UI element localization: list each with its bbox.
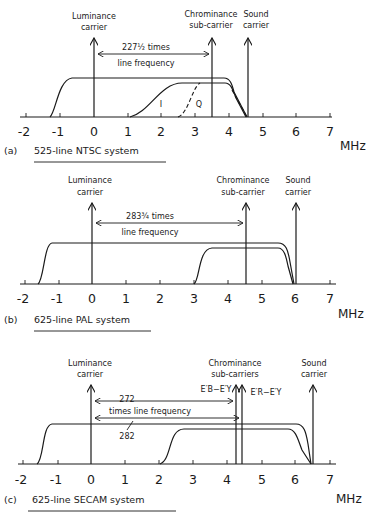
svg-text:-1: -1 (51, 291, 63, 306)
spacing-label-middle: times line frequency (109, 407, 191, 416)
sound-carrier-label-2: carrier (301, 370, 328, 379)
caption-prefix: (a) (4, 145, 17, 156)
svg-text:0: 0 (88, 291, 96, 306)
dr-subcarrier-label: E′R−E′Y (251, 388, 282, 397)
svg-text:5: 5 (258, 291, 266, 306)
i-chroma-band (130, 83, 246, 117)
luminance-carrier-label-2: carrier (81, 23, 108, 32)
sound-carrier-label-1: Sound (243, 10, 268, 19)
caption-prefix: (b) (4, 314, 17, 325)
luminance-carrier-label-2: carrier (77, 188, 104, 197)
chroma-subcarriers-label-1: Chrominance (208, 359, 261, 368)
sound-carrier-label-1: Sound (301, 359, 326, 368)
svg-text:3: 3 (189, 472, 197, 487)
svg-text:6: 6 (292, 124, 300, 139)
svg-text:3: 3 (190, 291, 198, 306)
luminance-carrier-label-1: Luminance (68, 176, 112, 185)
svg-text:4: 4 (225, 124, 233, 139)
svg-text:2: 2 (157, 124, 165, 139)
luminance-band (38, 243, 294, 284)
svg-text:1: 1 (124, 124, 132, 139)
svg-text:7: 7 (326, 291, 334, 306)
svg-text:4: 4 (223, 472, 231, 487)
svg-text:-2: -2 (18, 124, 30, 139)
band-label-q: Q (196, 100, 202, 109)
unit-label: MHz (338, 307, 364, 321)
svg-text:2: 2 (155, 472, 163, 487)
svg-text:6: 6 (291, 472, 299, 487)
panel-secam: Luminance carrier Chrominance sub-carrie… (4, 359, 362, 511)
spacing-label-1: 283¾ times (126, 212, 174, 221)
svg-text:1: 1 (122, 291, 130, 306)
tick-labels: -2 -1 0 1 2 3 4 5 6 7 (15, 472, 334, 487)
db-subcarrier-label: E′B−E′Y (201, 385, 232, 394)
chroma-subcarrier-label-2: sub-carrier (221, 188, 265, 197)
tick-labels: -2 -1 0 1 2 3 4 5 6 7 (17, 291, 334, 306)
chroma-subcarrier-label-1: Chrominance (184, 10, 237, 19)
panel-pal: Luminance carrier Chrominance sub-carrie… (4, 176, 364, 331)
spacing-label-272: 272 (119, 395, 134, 404)
panel-ntsc: Luminance carrier Chrominance sub-carrie… (4, 10, 366, 162)
spacing-label-1: 227½ times (122, 43, 170, 52)
svg-text:0: 0 (90, 124, 98, 139)
leader-line (127, 421, 133, 430)
svg-text:-1: -1 (50, 472, 62, 487)
chroma-band (194, 248, 293, 284)
luminance-carrier-label-1: Luminance (72, 12, 116, 21)
unit-label: MHz (336, 492, 362, 506)
svg-text:6: 6 (291, 291, 299, 306)
svg-text:7: 7 (326, 124, 334, 139)
luminance-band (37, 424, 311, 464)
band-label-i: I (160, 100, 162, 109)
tick-labels: -2 -1 0 1 2 3 4 5 6 7 (18, 124, 334, 139)
svg-text:3: 3 (191, 124, 199, 139)
svg-text:1: 1 (121, 472, 129, 487)
svg-text:0: 0 (87, 472, 95, 487)
spacing-label-2: line frequency (121, 228, 178, 237)
svg-text:7: 7 (326, 472, 334, 487)
svg-text:-2: -2 (17, 291, 29, 306)
svg-text:2: 2 (156, 291, 164, 306)
sound-carrier-label-2: carrier (285, 188, 312, 197)
svg-text:-1: -1 (52, 124, 64, 139)
chroma-subcarrier-label-2: sub-carrier (189, 21, 233, 30)
svg-text:5: 5 (259, 124, 267, 139)
tv-spectra-diagram: Luminance carrier Chrominance sub-carrie… (0, 0, 378, 515)
caption-prefix: (c) (4, 494, 17, 505)
spacing-label-2: line frequency (117, 59, 174, 68)
svg-text:5: 5 (258, 472, 266, 487)
svg-text:-2: -2 (15, 472, 27, 487)
panel-caption: 625-line SECAM system (32, 494, 144, 505)
luminance-band (50, 78, 247, 117)
luminance-carrier-label-2: carrier (77, 370, 104, 379)
spacing-label-282: 282 (119, 432, 134, 441)
unit-label: MHz (340, 139, 366, 153)
panel-caption: 525-line NTSC system (34, 145, 139, 156)
luminance-carrier-label-1: Luminance (68, 359, 112, 368)
chroma-subcarriers-label-2: sub-carriers (211, 370, 259, 379)
chroma-subcarrier-label-1: Chrominance (216, 176, 269, 185)
svg-text:4: 4 (224, 291, 232, 306)
sound-carrier-label-2: carrier (243, 21, 270, 30)
sound-carrier-label-1: Sound (285, 176, 310, 185)
panel-caption: 625-line PAL system (34, 314, 130, 325)
